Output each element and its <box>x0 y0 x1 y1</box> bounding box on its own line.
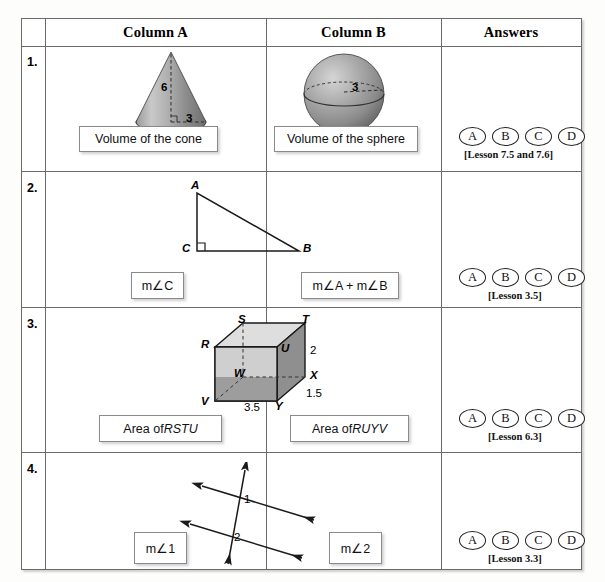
header-column-b: Column B <box>266 19 441 46</box>
choice-box-3a[interactable]: Area of RSTU <box>99 415 222 442</box>
row-number-2: 2. <box>27 181 37 195</box>
prism-dim-depth: 1.5 <box>306 387 322 399</box>
parallel-lines-transversal-figure <box>162 462 342 572</box>
prism-vertex-x: X <box>310 369 318 381</box>
header-column-a: Column A <box>45 19 266 46</box>
angle-label-1: 1 <box>244 493 250 505</box>
row-divider-1 <box>22 171 581 172</box>
triangle-vertex-c: C <box>182 242 190 254</box>
lesson-label-1: [Lesson 7.5 and 7.6] <box>464 149 553 160</box>
prism-vertex-u: U <box>281 342 289 354</box>
choice-box-1b[interactable]: Volume of the sphere <box>274 126 418 152</box>
lesson-label-4: [Lesson 3.3] <box>488 553 542 564</box>
prism-vertex-s: S <box>238 313 246 325</box>
prism-vertex-t: T <box>302 313 309 325</box>
choice-box-2b[interactable]: m∠A + m∠B <box>301 272 399 299</box>
answer-bubbles-4[interactable]: A B C D <box>459 531 585 550</box>
answer-bubble-b[interactable]: B <box>492 127 519 146</box>
prism-vertex-w: W <box>234 367 245 379</box>
lesson-label-3: [Lesson 6.3] <box>488 431 542 442</box>
header-divider <box>22 46 581 47</box>
cone-radius-label: 3 <box>186 112 192 124</box>
prism-dim-width: 3.5 <box>244 401 260 413</box>
choice-box-1a[interactable]: Volume of the cone <box>79 126 218 152</box>
row-divider-2 <box>22 307 581 308</box>
row-number-1: 1. <box>27 55 37 69</box>
angle-label-2: 2 <box>234 531 240 543</box>
answer-bubble-a[interactable]: A <box>459 531 486 550</box>
answer-bubble-d[interactable]: D <box>558 127 585 146</box>
header-answers: Answers <box>441 19 581 46</box>
answer-bubble-c[interactable]: C <box>525 127 552 146</box>
prism-dim-height: 2 <box>310 344 316 356</box>
choice-box-3a-vertices: RSTU <box>164 422 198 436</box>
answer-bubble-c[interactable]: C <box>525 531 552 550</box>
row-number-4: 4. <box>27 462 37 476</box>
sphere-radius-label: 3 <box>352 81 358 93</box>
answer-bubbles-1[interactable]: A B C D <box>459 127 585 146</box>
triangle-vertex-a: A <box>191 179 199 191</box>
row-number-3: 3. <box>27 317 37 331</box>
worksheet-page: Column A Column B Answers 1. <box>0 0 605 582</box>
answer-bubble-c[interactable]: C <box>525 268 552 287</box>
choice-box-3b-vertices: RUYV <box>352 422 387 436</box>
comparison-table: Column A Column B Answers 1. <box>21 18 582 570</box>
choice-box-4b[interactable]: m∠2 <box>329 532 382 564</box>
right-triangle-figure <box>177 179 317 269</box>
prism-vertex-r: R <box>201 338 209 350</box>
choice-box-3b-text: Area of <box>312 422 352 436</box>
answer-bubble-b[interactable]: B <box>492 409 519 428</box>
row-divider-3 <box>22 452 581 453</box>
choice-box-4a[interactable]: m∠1 <box>134 532 187 564</box>
answer-bubble-a[interactable]: A <box>459 409 486 428</box>
cone-height-label: 6 <box>161 81 167 93</box>
prism-vertex-y: Y <box>275 400 283 412</box>
answer-bubble-d[interactable]: D <box>558 531 585 550</box>
answer-bubble-b[interactable]: B <box>492 531 519 550</box>
rectangular-prism-figure <box>197 315 332 415</box>
choice-box-3a-text: Area of <box>123 422 163 436</box>
choice-box-3b[interactable]: Area of RUYV <box>290 415 409 442</box>
answer-bubbles-3[interactable]: A B C D <box>459 409 585 428</box>
answer-bubble-a[interactable]: A <box>459 268 486 287</box>
column-divider-b-answers <box>441 19 442 569</box>
answer-bubble-d[interactable]: D <box>558 409 585 428</box>
answer-bubble-c[interactable]: C <box>525 409 552 428</box>
answer-bubble-a[interactable]: A <box>459 127 486 146</box>
lesson-label-2: [Lesson 3.5] <box>488 290 542 301</box>
triangle-vertex-b: B <box>303 242 311 254</box>
answer-bubble-b[interactable]: B <box>492 268 519 287</box>
answer-bubble-d[interactable]: D <box>558 268 585 287</box>
answer-bubbles-2[interactable]: A B C D <box>459 268 585 287</box>
choice-box-2a[interactable]: m∠C <box>131 272 184 299</box>
column-divider-left <box>45 19 46 569</box>
prism-vertex-v: V <box>201 395 209 407</box>
